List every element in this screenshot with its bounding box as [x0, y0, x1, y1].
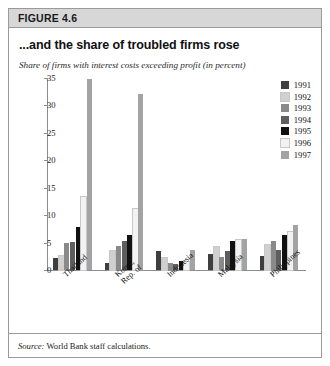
chart-legend: 1991199219931994199519961997 [281, 80, 311, 160]
legend-swatch-1993 [281, 104, 289, 112]
figure-header: FIGURE 4.6 [9, 9, 321, 28]
y-axis-tick-mark [44, 105, 47, 106]
source-label: Source: [18, 341, 44, 351]
y-axis-tick-mark [44, 270, 47, 271]
bar-1992-philippines [265, 245, 270, 270]
y-axis-tick-label: 5 [47, 238, 51, 248]
y-axis-tick-mark [44, 215, 47, 216]
legend-item-1993: 1993 [281, 103, 311, 113]
chart-plot-area: 05101520253035 ThailandKorea, Rep. ofInd… [9, 70, 321, 308]
y-axis-tick-mark [44, 243, 47, 244]
bar-1991-thailand [53, 258, 58, 270]
legend-item-1992: 1992 [281, 92, 311, 102]
legend-item-1994: 1994 [281, 115, 311, 125]
bar-1992-thailand [59, 256, 64, 270]
legend-item-1997: 1997 [281, 150, 311, 160]
bar-group [99, 78, 151, 270]
legend-label-1997: 1997 [294, 150, 311, 160]
source-note: Source: World Bank staff calculations. [9, 333, 321, 357]
figure-number-label: FIGURE 4.6 [18, 12, 77, 24]
legend-swatch-1992 [281, 93, 289, 101]
y-axis-tick-label: 35 [47, 73, 51, 83]
legend-swatch-1996 [281, 139, 289, 147]
legend-label-1992: 1992 [294, 92, 311, 102]
bar-1992-malaysia [214, 247, 219, 270]
figure-title: ...and the share of troubled firms rose [9, 28, 321, 54]
legend-item-1996: 1996 [281, 138, 311, 148]
bar-group [202, 78, 254, 270]
bar-1991-malaysia [208, 254, 213, 270]
bar-1992-indonesia [162, 258, 167, 270]
y-axis-tick-label: 0 [47, 265, 51, 275]
bar-1992-korea-rep-of [110, 251, 115, 270]
legend-label-1991: 1991 [294, 80, 311, 90]
y-axis-tick-mark [44, 188, 47, 189]
bar-1997-thailand [87, 79, 92, 270]
figure-subtitle: Share of firms with interest costs excee… [9, 54, 321, 70]
y-axis-tick-label: 10 [47, 210, 51, 220]
figure-frame: FIGURE 4.6 ...and the share of troubled … [8, 8, 322, 358]
bar-1997-korea-rep-of [138, 94, 143, 270]
legend-swatch-1991 [281, 81, 289, 89]
legend-swatch-1995 [281, 127, 289, 135]
legend-item-1995: 1995 [281, 126, 311, 136]
legend-label-1993: 1993 [294, 103, 311, 113]
source-note-text: Source: World Bank staff calculations. [18, 341, 151, 351]
y-axis-tick-label: 15 [47, 183, 51, 193]
bar-1991-indonesia [156, 251, 161, 270]
bars-container [47, 78, 305, 270]
y-axis-tick-mark [44, 78, 47, 79]
source-value: World Bank staff calculations. [46, 341, 150, 351]
legend-label-1995: 1995 [294, 126, 311, 136]
bar-1997-malaysia [242, 239, 247, 270]
y-axis-tick-mark [44, 160, 47, 161]
y-axis-tick-label: 25 [47, 128, 51, 138]
y-axis-tick-mark [44, 133, 47, 134]
bar-1991-philippines [260, 256, 265, 270]
bar-1991-korea-rep-of [105, 263, 110, 270]
legend-label-1996: 1996 [294, 138, 311, 148]
legend-swatch-1997 [281, 151, 289, 159]
y-axis-tick-label: 30 [47, 100, 51, 110]
bar-group [150, 78, 202, 270]
legend-label-1994: 1994 [294, 115, 311, 125]
y-axis-tick-label: 20 [47, 155, 51, 165]
legend-item-1991: 1991 [281, 80, 311, 90]
legend-swatch-1994 [281, 116, 289, 124]
figure-card: FIGURE 4.6 ...and the share of troubled … [0, 0, 330, 366]
